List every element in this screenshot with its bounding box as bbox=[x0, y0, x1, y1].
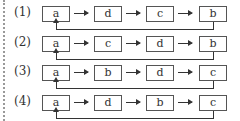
feedback-line-down bbox=[213, 81, 214, 88]
feedback-line-down bbox=[213, 111, 214, 118]
arrow-right-icon bbox=[178, 72, 192, 73]
arrow-up-icon bbox=[56, 22, 57, 29]
diagram-row: (4)adbc bbox=[0, 90, 240, 119]
arrow-right-icon bbox=[126, 43, 140, 44]
diagram-row: (2)acdb bbox=[0, 31, 240, 60]
feedback-line-down bbox=[213, 52, 214, 59]
node-box: d bbox=[146, 36, 174, 52]
node-box: c bbox=[199, 95, 227, 111]
arrow-right-icon bbox=[74, 72, 88, 73]
arrow-up-icon bbox=[56, 111, 57, 118]
node-box: b bbox=[146, 95, 174, 111]
arrow-up-icon bbox=[56, 81, 57, 88]
arrow-right-icon bbox=[74, 13, 88, 14]
diagram-row: (3)abdc bbox=[0, 60, 240, 89]
row-label: (1) bbox=[14, 5, 31, 19]
row-label: (2) bbox=[14, 35, 31, 49]
arrow-right-icon bbox=[126, 13, 140, 14]
node-box: c bbox=[94, 36, 122, 52]
arrow-up-icon bbox=[56, 52, 57, 59]
arrow-right-icon bbox=[178, 13, 192, 14]
diagram-row: (1)adcb bbox=[0, 1, 240, 30]
node-box: b bbox=[94, 65, 122, 81]
feedback-line-horizontal bbox=[56, 118, 214, 119]
arrow-right-icon bbox=[178, 102, 192, 103]
arrow-right-icon bbox=[126, 102, 140, 103]
node-box: d bbox=[94, 95, 122, 111]
arrow-right-icon bbox=[126, 72, 140, 73]
arrow-right-icon bbox=[74, 102, 88, 103]
node-box: c bbox=[199, 65, 227, 81]
row-label: (4) bbox=[14, 94, 31, 108]
node-box: b bbox=[199, 36, 227, 52]
node-box: d bbox=[146, 65, 174, 81]
row-label: (3) bbox=[14, 64, 31, 78]
arrow-right-icon bbox=[74, 43, 88, 44]
node-box: b bbox=[199, 6, 227, 22]
node-box: c bbox=[146, 6, 174, 22]
feedback-line-down bbox=[213, 22, 214, 29]
arrow-right-icon bbox=[178, 43, 192, 44]
node-box: d bbox=[94, 6, 122, 22]
